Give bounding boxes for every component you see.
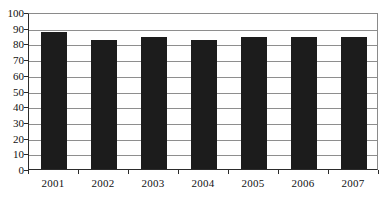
bar — [141, 37, 167, 169]
y-axis-tick-label: 50 — [0, 86, 24, 97]
x-axis-tick-label: 2005 — [228, 177, 278, 189]
x-axis-tick-mark — [278, 170, 279, 174]
x-axis-tick-mark — [378, 170, 379, 174]
x-axis-tick-mark — [178, 170, 179, 174]
x-axis-tick-label: 2002 — [78, 177, 128, 189]
bar — [291, 37, 317, 169]
bar-chart: 0102030405060708090100 20012002200320042… — [0, 0, 390, 202]
x-axis-tick-mark — [128, 170, 129, 174]
x-axis-tick-mark — [28, 170, 29, 174]
x-axis-tick-label: 2007 — [328, 177, 378, 189]
y-axis-tick-label: 30 — [0, 117, 24, 128]
x-axis-tick-mark — [228, 170, 229, 174]
y-axis: 0102030405060708090100 — [0, 13, 26, 170]
y-axis-tick-label: 70 — [0, 55, 24, 66]
x-axis-tick-label: 2003 — [128, 177, 178, 189]
y-axis-tick-label: 0 — [0, 165, 24, 176]
y-axis-tick-label: 60 — [0, 70, 24, 81]
y-axis-tick-label: 10 — [0, 149, 24, 160]
x-axis-tick-label: 2001 — [28, 177, 78, 189]
bar — [341, 37, 367, 169]
y-axis-tick-label: 100 — [0, 8, 24, 19]
x-axis-tick-label: 2004 — [178, 177, 228, 189]
plot-area — [28, 13, 378, 170]
bar — [91, 40, 117, 169]
bar — [41, 32, 67, 169]
y-axis-tick-label: 90 — [0, 23, 24, 34]
y-axis-tick-label: 20 — [0, 133, 24, 144]
x-axis-tick-mark — [78, 170, 79, 174]
y-axis-tick-label: 80 — [0, 39, 24, 50]
bar — [241, 37, 267, 169]
y-axis-tick-label: 40 — [0, 102, 24, 113]
bar — [191, 40, 217, 169]
x-axis-tick-mark — [328, 170, 329, 174]
x-axis-tick-label: 2006 — [278, 177, 328, 189]
gridline — [29, 30, 377, 31]
